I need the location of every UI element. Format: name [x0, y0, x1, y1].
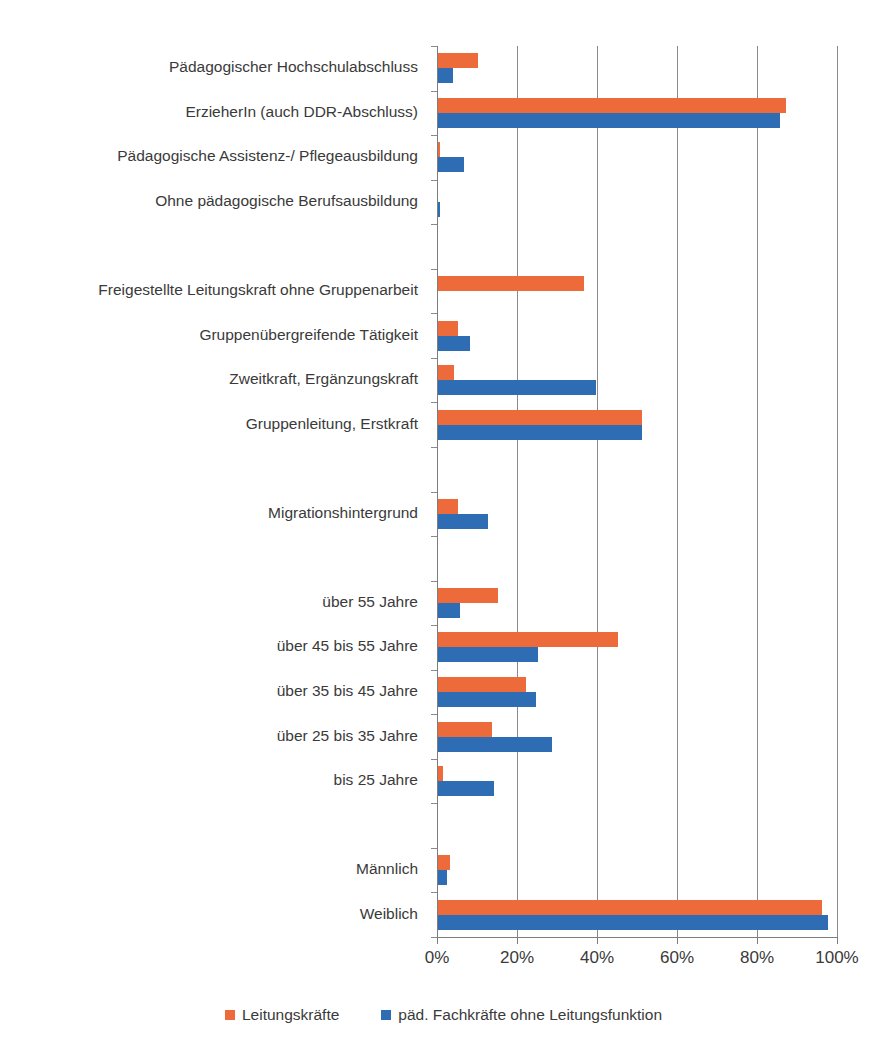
- x-axis-tick: [677, 937, 678, 944]
- bar-leitungskraefte: [438, 276, 584, 291]
- bar-paed-fachkraefte: [438, 425, 642, 440]
- bar-paed-fachkraefte: [438, 692, 536, 707]
- category-tick: [431, 625, 437, 626]
- bar-leitungskraefte: [438, 365, 454, 380]
- x-axis-tick: [837, 937, 838, 944]
- category-tick: [431, 91, 437, 92]
- bar-leitungskraefte: [438, 632, 618, 647]
- x-axis-tick-label: 0%: [402, 948, 472, 968]
- category-axis-labels: Pädagogischer HochschulabschlussErzieher…: [0, 0, 428, 1055]
- category-tick: [431, 759, 437, 760]
- category-tick: [431, 313, 437, 314]
- category-label: über 55 Jahre: [322, 594, 418, 610]
- category-label: Freigestellte Leitungskraft ohne Gruppen…: [98, 282, 418, 298]
- category-tick: [431, 536, 437, 537]
- bar-paed-fachkraefte: [438, 113, 780, 128]
- bar-paed-fachkraefte: [438, 647, 538, 662]
- category-tick: [431, 892, 437, 893]
- category-label: Gruppenleitung, Erstkraft: [246, 416, 418, 432]
- x-axis-tick-label: 80%: [722, 948, 792, 968]
- legend-entry[interactable]: päd. Fachkräfte ohne Leitungsfunktion: [381, 1006, 662, 1024]
- gridline: [597, 46, 598, 937]
- bar-leitungskraefte: [438, 855, 450, 870]
- category-label: über 45 bis 55 Jahre: [277, 638, 418, 654]
- category-label: Männlich: [356, 861, 418, 877]
- category-tick: [431, 848, 437, 849]
- bar-paed-fachkraefte: [438, 737, 552, 752]
- x-axis-tick: [517, 937, 518, 944]
- legend-label: Leitungskräfte: [242, 1006, 339, 1024]
- bar-paed-fachkraefte: [438, 915, 828, 930]
- bar-leitungskraefte: [438, 588, 498, 603]
- category-tick: [431, 492, 437, 493]
- category-label: bis 25 Jahre: [334, 772, 418, 788]
- bar-leitungskraefte: [438, 499, 458, 514]
- gridline: [837, 46, 838, 937]
- category-tick: [431, 447, 437, 448]
- chart-legend: Leitungskräftepäd. Fachkräfte ohne Leitu…: [0, 1006, 887, 1024]
- category-tick: [431, 135, 437, 136]
- category-label: Zweitkraft, Ergänzungskraft: [229, 371, 418, 387]
- bar-paed-fachkraefte: [438, 68, 453, 83]
- x-axis-tick: [437, 937, 438, 944]
- legend-label: päd. Fachkräfte ohne Leitungsfunktion: [398, 1006, 662, 1024]
- category-label: über 25 bis 35 Jahre: [277, 728, 418, 744]
- x-axis-tick-label: 100%: [802, 948, 872, 968]
- gridline: [517, 46, 518, 937]
- category-label: Pädagogischer Hochschulabschluss: [169, 59, 418, 75]
- bar-leitungskraefte: [438, 142, 440, 157]
- bar-paed-fachkraefte: [438, 336, 470, 351]
- bar-paed-fachkraefte: [438, 781, 494, 796]
- category-label: über 35 bis 45 Jahre: [277, 683, 418, 699]
- x-axis-tick-label: 60%: [642, 948, 712, 968]
- bar-leitungskraefte: [438, 677, 526, 692]
- category-label: Pädagogische Assistenz-/ Pflegeausbildun…: [117, 148, 418, 164]
- x-axis-line: [437, 937, 838, 938]
- bar-paed-fachkraefte: [438, 603, 460, 618]
- legend-swatch-icon: [225, 1010, 235, 1020]
- bar-leitungskraefte: [438, 98, 786, 113]
- bar-leitungskraefte: [438, 900, 822, 915]
- bar-paed-fachkraefte: [438, 380, 596, 395]
- category-label: Gruppenübergreifende Tätigkeit: [199, 327, 418, 343]
- category-label: Weiblich: [360, 906, 418, 922]
- bar-leitungskraefte: [438, 410, 642, 425]
- category-tick: [431, 180, 437, 181]
- chart-page: Pädagogischer HochschulabschlussErzieher…: [0, 0, 887, 1055]
- legend-entry[interactable]: Leitungskräfte: [225, 1006, 339, 1024]
- bar-leitungskraefte: [438, 53, 478, 68]
- gridline: [757, 46, 758, 937]
- category-tick: [431, 670, 437, 671]
- category-tick: [431, 269, 437, 270]
- bar-leitungskraefte: [438, 321, 458, 336]
- legend-swatch-icon: [381, 1010, 391, 1020]
- category-tick: [431, 224, 437, 225]
- x-axis-tick: [757, 937, 758, 944]
- category-label: ErzieherIn (auch DDR-Abschluss): [185, 104, 418, 120]
- category-tick: [431, 358, 437, 359]
- bar-paed-fachkraefte: [438, 157, 464, 172]
- category-tick: [431, 803, 437, 804]
- category-label: Migrationshintergrund: [268, 505, 418, 521]
- category-tick: [431, 581, 437, 582]
- x-axis-tick: [597, 937, 598, 944]
- bar-paed-fachkraefte: [438, 514, 488, 529]
- bar-leitungskraefte: [438, 766, 443, 781]
- bar-leitungskraefte: [438, 722, 492, 737]
- bar-paed-fachkraefte: [438, 870, 447, 885]
- x-axis-tick-label: 40%: [562, 948, 632, 968]
- category-label: Ohne pädagogische Berufsausbildung: [155, 193, 418, 209]
- x-axis-tick-label: 20%: [482, 948, 552, 968]
- bar-paed-fachkraefte: [438, 202, 440, 217]
- category-tick: [431, 714, 437, 715]
- category-tick: [431, 46, 437, 47]
- plot-area: [437, 46, 837, 937]
- category-tick: [431, 402, 437, 403]
- gridline: [677, 46, 678, 937]
